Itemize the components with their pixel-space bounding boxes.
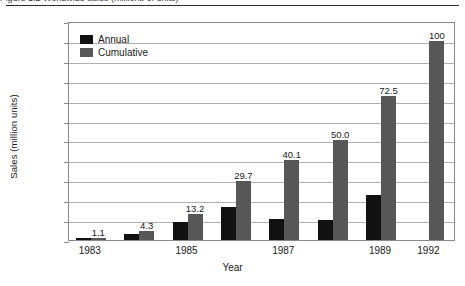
bar-cumulative (139, 231, 154, 240)
legend: AnnualCumulative (80, 33, 148, 59)
bar-cumulative (429, 41, 444, 240)
x-axis-tick-label: 1985 (175, 245, 197, 256)
bar-annual (318, 220, 333, 240)
bar-annual (173, 222, 188, 240)
data-label: 1.1 (92, 227, 105, 238)
data-label: 100 (429, 30, 445, 41)
header-rule (6, 5, 459, 6)
bar-cumulative (333, 140, 348, 240)
y-axis-tick-mark (64, 242, 69, 243)
y-axis-tick-mark (64, 63, 69, 64)
bar-annual (76, 238, 91, 240)
data-label: 72.5 (379, 85, 398, 96)
y-axis-tick-mark (64, 123, 69, 124)
bar-cumulative (236, 181, 251, 240)
y-axis-tick-mark (64, 43, 69, 44)
y-axis-tick-mark (64, 23, 69, 24)
x-axis-title: Year (0, 262, 465, 273)
legend-label: Annual (98, 33, 129, 46)
legend-label: Cumulative (98, 46, 148, 59)
legend-item: Cumulative (80, 46, 148, 59)
data-label: 29.7 (234, 170, 253, 181)
legend-item: Annual (80, 33, 148, 46)
y-axis-tick-mark (64, 83, 69, 84)
bar-cumulative (284, 160, 299, 240)
y-axis-tick-mark (64, 162, 69, 163)
legend-swatch (80, 48, 93, 57)
data-label: 13.2 (186, 203, 205, 214)
data-label: 40.1 (283, 149, 302, 160)
bar-annual (221, 207, 236, 240)
bar-cumulative (381, 96, 396, 240)
y-axis-tick-mark (64, 142, 69, 143)
x-axis-tick-label: 1983 (79, 245, 101, 256)
x-axis-tick-label: 1992 (417, 245, 439, 256)
x-axis-tick-label: 1989 (369, 245, 391, 256)
y-axis-tick-mark (64, 103, 69, 104)
legend-swatch (80, 35, 93, 44)
bar-annual (366, 195, 381, 240)
bar-cumulative (188, 214, 203, 240)
bar-annual (124, 234, 139, 240)
y-axis-tick-mark (64, 182, 69, 183)
bar-annual (269, 219, 284, 240)
bar-cumulative (91, 238, 106, 240)
y-axis-title: Sales (million units) (8, 37, 19, 237)
x-axis-tick-label: 1987 (272, 245, 294, 256)
figure-container: Figure 1.2 Worldwide sales (millions of … (0, 0, 465, 286)
y-axis-tick-mark (64, 222, 69, 223)
data-label: 4.3 (140, 220, 153, 231)
data-label: 50.0 (331, 129, 350, 140)
y-axis-tick-mark (64, 202, 69, 203)
